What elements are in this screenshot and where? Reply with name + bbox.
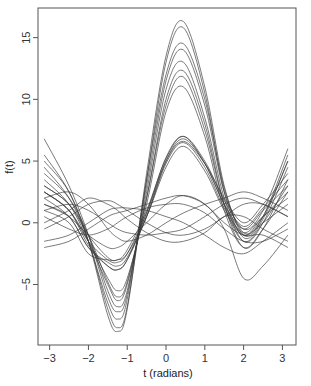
y-axis: −5051015 — [20, 32, 38, 291]
x-axis-title: t (radians) — [143, 367, 193, 379]
x-tick-label: −2 — [82, 352, 95, 364]
y-axis-title: f(t) — [3, 160, 15, 173]
x-tick-label: −3 — [43, 352, 56, 364]
data-curve — [44, 21, 288, 332]
functional-data-chart: −3−2−10123 −5051015 t (radians) f(t) — [0, 0, 311, 386]
data-curve — [44, 43, 288, 319]
data-curve — [44, 86, 288, 291]
y-tick-label: 15 — [20, 32, 32, 44]
data-curve — [44, 27, 288, 328]
y-tick-label: 10 — [20, 93, 32, 105]
y-tick-label: 5 — [20, 158, 32, 164]
data-curve — [44, 76, 288, 297]
x-tick-label: 1 — [202, 352, 208, 364]
y-tick-label: −5 — [20, 278, 32, 291]
y-tick-label: 0 — [20, 220, 32, 226]
x-axis: −3−2−10123 — [43, 345, 285, 364]
x-tick-label: 0 — [163, 352, 169, 364]
curve-group — [44, 21, 288, 332]
x-tick-label: −1 — [121, 352, 134, 364]
x-tick-label: 3 — [279, 352, 285, 364]
x-tick-label: 2 — [241, 352, 247, 364]
